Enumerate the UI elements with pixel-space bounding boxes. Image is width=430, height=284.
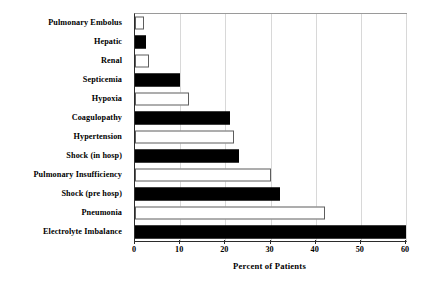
- gridline: [406, 14, 407, 241]
- plot-area: [134, 13, 407, 242]
- bar: [135, 206, 325, 219]
- bar: [135, 74, 180, 87]
- category-label: Pulmonary Embolus: [48, 18, 122, 27]
- category-label: Renal: [101, 56, 122, 65]
- x-tick: [315, 240, 316, 244]
- bar: [135, 36, 146, 49]
- bar-chart-figure: Pulmonary EmbolusHepaticRenalSepticemiaH…: [0, 0, 430, 284]
- x-tick: [405, 240, 406, 244]
- category-label: Hypoxia: [92, 94, 122, 103]
- x-tick-label: 40: [311, 245, 319, 254]
- x-tick-label: 30: [265, 245, 273, 254]
- x-tick-label: 60: [401, 245, 409, 254]
- category-label: Septicemia: [83, 75, 122, 84]
- category-label: Shock (in hosp): [66, 150, 122, 159]
- bar: [135, 55, 149, 68]
- bar: [135, 112, 230, 125]
- gridline: [361, 14, 362, 241]
- x-tick: [270, 240, 271, 244]
- bar: [135, 225, 406, 238]
- x-tick-label: 10: [175, 245, 183, 254]
- bar: [135, 17, 144, 30]
- bar: [135, 168, 271, 181]
- bar: [135, 93, 189, 106]
- plot-inner: [135, 14, 406, 241]
- bar: [135, 149, 239, 162]
- category-label: Electrolyte Imbalance: [43, 226, 122, 235]
- category-label: Hepatic: [94, 37, 122, 46]
- category-label: Shock (pre hosp): [61, 188, 122, 197]
- category-label: Coagulopathy: [72, 113, 122, 122]
- x-tick-label: 0: [132, 245, 136, 254]
- x-tick-label: 20: [220, 245, 228, 254]
- x-tick: [224, 240, 225, 244]
- category-label: Hypertension: [73, 131, 122, 140]
- bar: [135, 187, 280, 200]
- x-axis-title: Percent of Patients: [134, 261, 405, 271]
- category-label: Pneumonia: [82, 207, 122, 216]
- x-tick: [360, 240, 361, 244]
- x-tick-label: 50: [356, 245, 364, 254]
- category-axis-labels: Pulmonary EmbolusHepaticRenalSepticemiaH…: [0, 13, 126, 240]
- category-label: Pulmonary Insufficiency: [34, 169, 123, 178]
- x-tick: [134, 240, 135, 244]
- x-tick: [179, 240, 180, 244]
- bar: [135, 130, 234, 143]
